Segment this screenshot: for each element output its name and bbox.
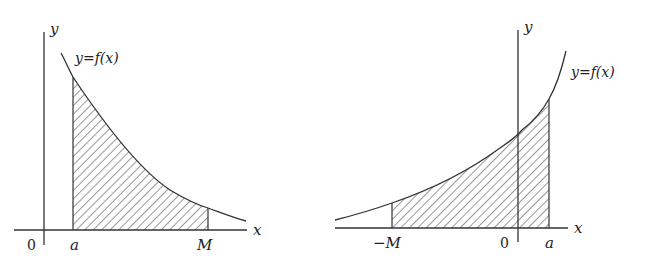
- left-M-label: M: [196, 236, 213, 254]
- left-origin-label: 0: [27, 237, 36, 253]
- left-panel: y y=f(x) x 0 a M: [14, 20, 262, 254]
- right-x-axis-label: x: [574, 219, 583, 237]
- right-shaded-region: [385, 90, 555, 235]
- left-shaded-region: [60, 60, 220, 240]
- right-origin-label: 0: [500, 235, 509, 251]
- left-a-label: a: [70, 236, 79, 254]
- left-y-axis-label: y: [49, 20, 59, 38]
- right-panel: y y=f(x) x −M 0 a: [335, 18, 615, 252]
- right-a-label: a: [545, 234, 554, 252]
- left-curve-label: y=f(x): [74, 50, 119, 66]
- integral-diagram: y y=f(x) x 0 a M y y=f(x) x −M 0 a: [0, 0, 649, 275]
- left-x-axis-label: x: [253, 221, 262, 239]
- right-y-axis-label: y: [523, 18, 533, 36]
- right-negM-label: −M: [373, 234, 402, 252]
- right-curve-label: y=f(x): [570, 64, 615, 80]
